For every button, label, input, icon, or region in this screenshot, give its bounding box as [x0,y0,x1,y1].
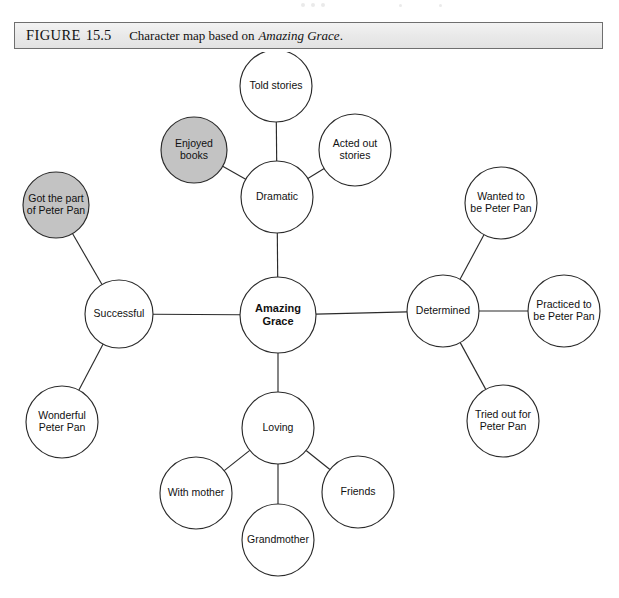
connector-amazing-grace-to-successful [153,314,240,315]
node-label-wonderful-peter-pan: WonderfulPeter Pan [38,409,86,434]
figure-caption-book-title: Amazing Grace [254,28,339,44]
node-label-with-mother: With mother [168,486,225,498]
node-loving[interactable]: Loving [242,392,314,464]
figure-caption-text: Character map based on [111,28,254,44]
figure-label: FIGURE [15,27,81,44]
connector-loving-to-with-mother [224,450,250,470]
node-label-determined: Determined [416,304,470,316]
node-label-practiced-to-be-peter-pan: Practiced tobe Peter Pan [533,298,594,323]
node-label-enjoyed-books: Enjoyedbooks [175,137,213,162]
node-layer: AmazingGraceDramaticTold storiesActed ou… [23,52,600,576]
node-wonderful-peter-pan[interactable]: WonderfulPeter Pan [26,386,98,458]
figure-number: 15.5 [81,27,111,44]
scan-artifact [301,3,305,7]
node-label-friends: Friends [340,485,375,497]
connector-successful-to-got-the-part-of-peter-pan [73,234,102,285]
node-practiced-to-be-peter-pan[interactable]: Practiced tobe Peter Pan [528,275,600,347]
scan-artifact [439,4,442,7]
node-friends[interactable]: Friends [322,456,394,528]
node-successful[interactable]: Successful [85,280,153,348]
node-told-stories[interactable]: Told stories [240,52,312,122]
scan-artifact [321,3,325,7]
character-map-diagram: AmazingGraceDramaticTold storiesActed ou… [0,52,619,598]
connector-dramatic-to-acted-out-stories [308,169,324,179]
figure-caption-bar: FIGURE 15.5 Character map based on Amazi… [14,22,603,49]
node-label-loving: Loving [263,421,294,433]
node-label-tried-out-for-peter-pan: Tried out forPeter Pan [475,408,532,433]
node-label-wanted-to-be-peter-pan: Wanted tobe Peter Pan [470,190,531,215]
node-label-got-the-part-of-peter-pan: Got the partof Peter Pan [27,192,86,217]
node-dramatic[interactable]: Dramatic [241,161,313,233]
node-label-told-stories: Told stories [249,79,302,91]
node-wanted-to-be-peter-pan[interactable]: Wanted tobe Peter Pan [465,167,537,239]
node-determined[interactable]: Determined [407,275,479,347]
figure-page: FIGURE 15.5 Character map based on Amazi… [0,0,619,598]
connector-amazing-grace-to-determined [316,312,407,314]
connector-dramatic-to-enjoyed-books [223,166,246,179]
node-got-the-part-of-peter-pan[interactable]: Got the partof Peter Pan [23,172,89,238]
node-label-dramatic: Dramatic [256,190,298,202]
node-grandmother[interactable]: Grandmother [242,504,314,576]
figure-caption-period: . [340,28,343,44]
connector-determined-to-tried-out-for-peter-pan [460,343,486,390]
node-with-mother[interactable]: With mother [160,457,232,529]
node-tried-out-for-peter-pan[interactable]: Tried out forPeter Pan [467,385,539,457]
connector-loving-to-friends [306,450,330,469]
node-acted-out-stories[interactable]: Acted outstories [319,114,391,186]
node-label-successful: Successful [94,307,145,319]
scan-artifact [311,3,315,7]
node-amazing-grace[interactable]: AmazingGrace [240,277,316,353]
node-label-grandmother: Grandmother [247,533,309,545]
connector-determined-to-wanted-to-be-peter-pan [460,235,484,280]
connector-successful-to-wonderful-peter-pan [79,344,103,390]
scan-artifact [399,4,402,7]
node-enjoyed-books[interactable]: Enjoyedbooks [161,117,227,183]
